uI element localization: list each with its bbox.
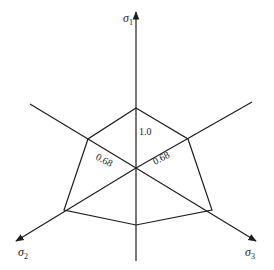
value-label-sigma1: 1.0	[139, 126, 152, 137]
sigma3-label: σ3	[245, 245, 255, 261]
stress-diagram: 1.0 0.68 0.68 σ1 σ2 σ3	[0, 0, 274, 270]
sigma3-axis	[136, 168, 256, 241]
upper-left-axis	[30, 104, 136, 168]
sigma2-axis	[16, 168, 136, 241]
sigma2-label: σ2	[18, 245, 28, 261]
sigma1-label: σ1	[123, 11, 133, 27]
value-label-right: 0.68	[151, 149, 172, 167]
